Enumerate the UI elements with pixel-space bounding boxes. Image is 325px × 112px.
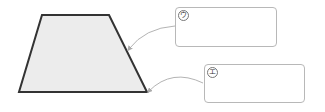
arrow-u-to-side <box>129 26 175 49</box>
answer-box-e[interactable]: エ <box>204 64 305 103</box>
trapezoid-shape <box>19 15 147 92</box>
diagram-canvas: ウ エ <box>0 0 325 112</box>
answer-box-u[interactable]: ウ <box>175 7 277 47</box>
arrow-e-to-vertex <box>149 77 203 91</box>
label-e: エ <box>207 67 218 78</box>
label-u: ウ <box>178 10 189 21</box>
